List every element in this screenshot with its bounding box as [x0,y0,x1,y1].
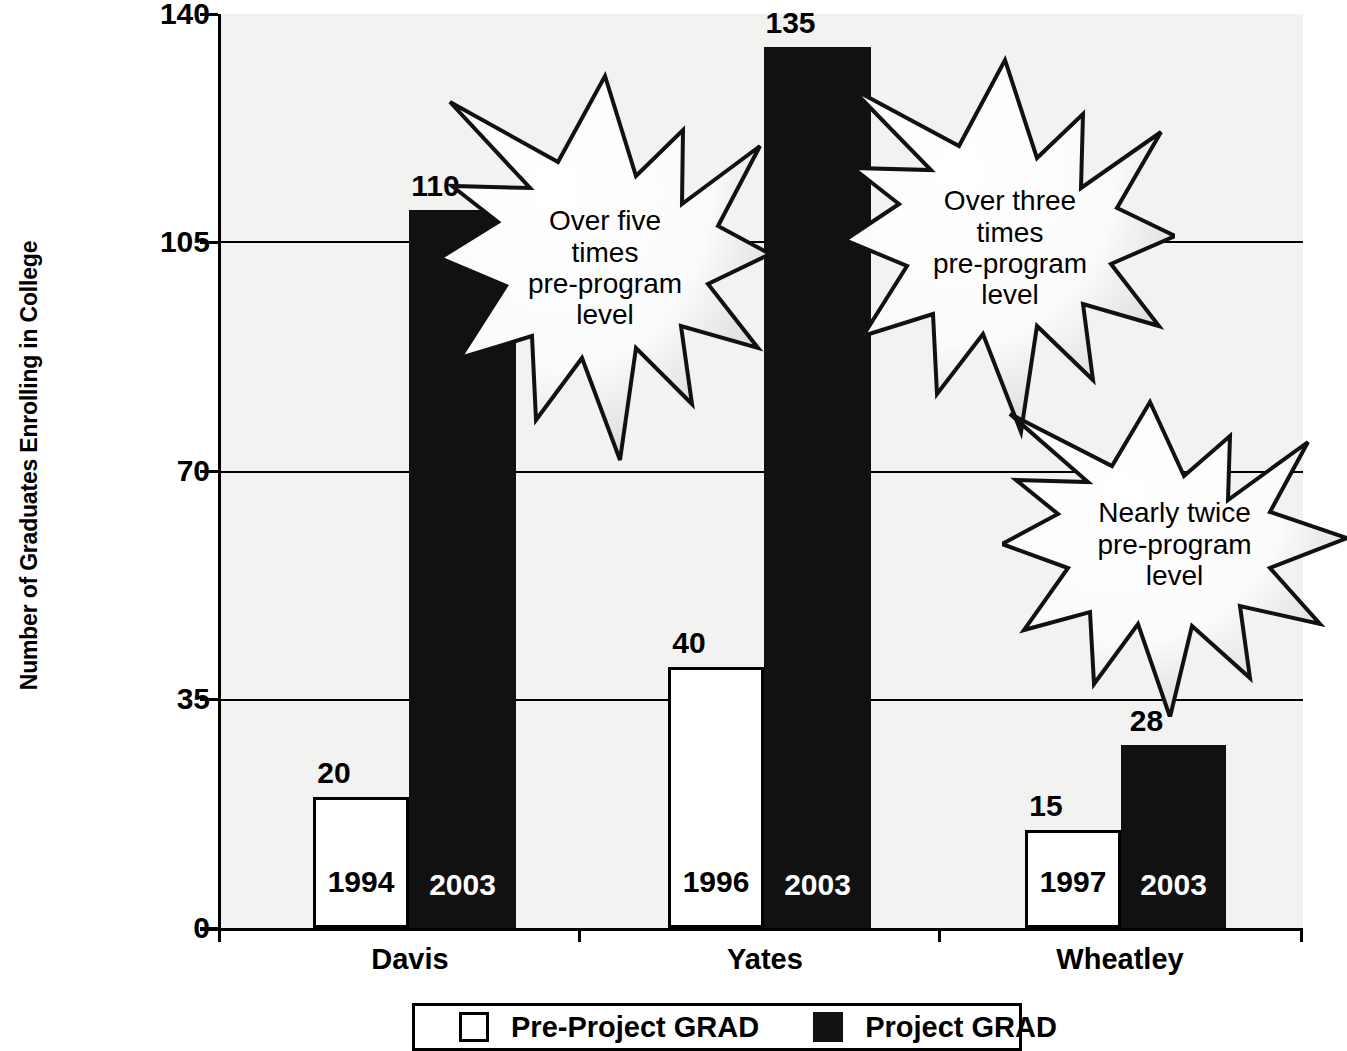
y-tick-70: 70 [90,456,210,486]
y-tick-105: 105 [90,227,210,257]
value-label-wheatley-post: 28 [1094,706,1199,736]
x-axis-baseline [200,928,1303,931]
y-tickmark-35 [200,698,218,701]
legend-label-pre: Pre-Project GRAD [511,1013,759,1042]
legend-entry-project-grad[interactable]: Project GRAD [813,1006,1057,1048]
legend-swatch-post-icon [813,1012,843,1042]
legend: Pre-Project GRAD Project GRAD [412,1003,1022,1051]
gridline-105 [221,241,1303,243]
category-label-wheatley: Wheatley [1010,945,1230,974]
y-tickmark-140 [200,13,218,16]
legend-entry-pre-project-grad[interactable]: Pre-Project GRAD [459,1006,759,1048]
bar-davis-pre[interactable]: 1994 [313,797,409,928]
bar-year-davis-post: 2003 [409,870,516,900]
bar-year-wheatley-pre: 1997 [1028,867,1118,897]
x-tick-left [218,928,221,942]
bar-davis-post[interactable]: 2003 [409,210,516,928]
category-label-yates: Yates [655,945,875,974]
bar-year-davis-pre: 1994 [316,867,406,897]
y-axis-tick-labels: 140 105 70 35 0 [60,0,210,960]
x-tick-right [1300,928,1303,942]
value-label-wheatley-pre: 15 [998,791,1094,821]
category-label-davis: Davis [300,945,520,974]
gridline-70 [221,471,1303,473]
legend-swatch-pre-icon [459,1012,489,1042]
x-tick-2 [938,928,941,942]
y-tickmark-105 [200,241,218,244]
bar-year-wheatley-post: 2003 [1121,870,1226,900]
plot-area: 1994 2003 1996 2003 1997 2003 [218,14,1303,928]
bar-year-yates-post: 2003 [764,870,871,900]
value-label-yates-pre: 40 [641,628,737,658]
y-tick-0: 0 [90,913,210,943]
bar-year-yates-pre: 1996 [671,867,761,897]
value-label-davis-post: 110 [382,171,489,201]
x-tick-1 [578,928,581,942]
y-tick-140: 140 [90,0,210,29]
y-axis-title-text: Number of Graduates Enrolling in College [17,240,44,690]
bar-wheatley-post[interactable]: 2003 [1121,745,1226,928]
bar-wheatley-pre[interactable]: 1997 [1025,830,1121,928]
y-axis-title: Number of Graduates Enrolling in College [0,0,60,930]
bar-yates-pre[interactable]: 1996 [668,667,764,928]
y-tick-35: 35 [90,684,210,714]
value-label-davis-pre: 20 [286,758,382,788]
bar-yates-post[interactable]: 2003 [764,47,871,928]
value-label-yates-post: 135 [737,8,844,38]
legend-label-post: Project GRAD [865,1013,1057,1042]
y-tickmark-70 [200,470,218,473]
